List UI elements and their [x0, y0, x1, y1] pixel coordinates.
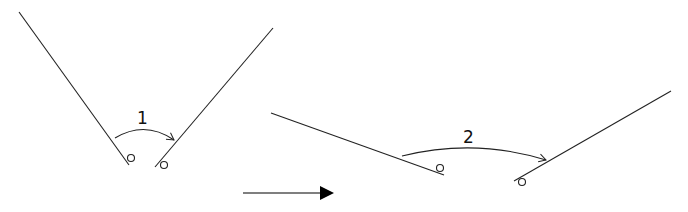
- stage-1: [19, 12, 273, 169]
- pivot-circle: [161, 162, 168, 169]
- rotation-arrow: [115, 129, 174, 140]
- right-line: [155, 28, 273, 167]
- left-line: [271, 113, 444, 175]
- transition-arrow: [243, 186, 334, 200]
- pivot-circle: [128, 155, 135, 162]
- stage-1-label: 1: [137, 108, 148, 128]
- pivot-circle: [519, 179, 526, 186]
- stage-2-label: 2: [463, 127, 474, 147]
- pivot-circle: [437, 165, 444, 172]
- left-line: [19, 12, 129, 165]
- diagram-canvas: 1 2: [0, 0, 688, 212]
- rotation-arrow: [402, 148, 546, 160]
- right-line: [514, 91, 671, 181]
